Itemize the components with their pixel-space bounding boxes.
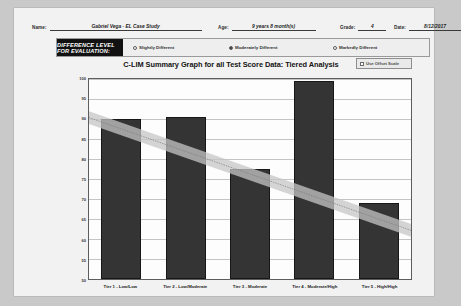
difference-level-row: DIFFERENCE LEVEL FOR EVALUATION: Slightl…	[56, 38, 430, 57]
plot-box	[88, 78, 412, 280]
date-value: 8/12/2017	[424, 24, 446, 30]
option-label: Moderately Different	[235, 45, 277, 50]
y-axis-tick: 95	[70, 96, 86, 101]
option-moderately-different[interactable]: Moderately Different	[229, 45, 333, 50]
option-label: Markedly Different	[339, 45, 377, 50]
y-axis-tick: 100	[70, 76, 86, 81]
use-offset-scale-label: Use Offset Scale	[366, 61, 399, 66]
y-axis-tick: 65	[70, 217, 86, 222]
y-axis-tick: 70	[70, 197, 86, 202]
chart-title: C-LIM Summary Graph for all Test Score D…	[123, 60, 338, 69]
difference-level-banner: DIFFERENCE LEVEL FOR EVALUATION:	[57, 39, 123, 56]
x-axis-label: Tier 1 - Low/Low	[104, 284, 138, 289]
x-axis-label: Tier 5 - High/High	[362, 284, 398, 289]
name-value: Gabriel Vega - EL Case Study	[91, 24, 159, 30]
option-slightly-different[interactable]: Slightly Different	[133, 45, 229, 50]
grade-value: 4	[371, 24, 374, 30]
chart-area: 50556065707580859095100 Tier 1 - Low/Low…	[70, 74, 418, 296]
radio-icon-slightly-different[interactable]	[133, 46, 137, 50]
option-markedly-different[interactable]: Markedly Different	[333, 45, 429, 50]
date-label: Date:	[394, 25, 406, 31]
identity-row: Name: Gabriel Vega - EL Case Study Age: …	[22, 18, 426, 34]
option-label: Slightly Different	[139, 45, 174, 50]
x-axis-label: Tier 4 - Moderate/High	[292, 284, 337, 289]
y-axis-tick: 50	[70, 278, 86, 283]
checkbox-icon[interactable]	[360, 62, 364, 66]
x-axis-label: Tier 2 - Low/Moderate	[163, 284, 207, 289]
difference-level-options: Slightly Different Moderately Different …	[123, 39, 429, 56]
date-field[interactable]: Date: 8/12/2017	[394, 18, 461, 31]
y-axis-tick: 85	[70, 136, 86, 141]
name-field[interactable]: Name: Gabriel Vega - EL Case Study	[32, 18, 202, 31]
age-field[interactable]: Age: 9 years 8 month(s)	[218, 18, 316, 31]
age-label: Age:	[218, 25, 229, 31]
radio-icon-markedly-different[interactable]	[333, 46, 337, 50]
y-axis-tick: 55	[70, 257, 86, 262]
x-axis-labels: Tier 1 - Low/LowTier 2 - Low/ModerateTie…	[88, 282, 412, 296]
trend-band-overlay	[89, 79, 411, 280]
y-axis-tick: 80	[70, 156, 86, 161]
use-offset-scale-checkbox[interactable]: Use Offset Scale	[356, 58, 412, 69]
form-sheet: Name: Gabriel Vega - EL Case Study Age: …	[14, 8, 434, 296]
x-axis-label: Tier 3 - Moderate	[233, 284, 267, 289]
age-value: 9 years 8 month(s)	[252, 24, 295, 30]
grade-label: Grade:	[340, 25, 355, 31]
y-axis-tick: 75	[70, 177, 86, 182]
y-axis-tick: 60	[70, 237, 86, 242]
grade-field[interactable]: Grade: 4	[340, 18, 386, 31]
y-axis-tick: 90	[70, 116, 86, 121]
chart-title-row: C-LIM Summary Graph for all Test Score D…	[54, 58, 408, 71]
name-label: Name:	[32, 25, 47, 31]
radio-icon-moderately-different[interactable]	[229, 46, 233, 50]
